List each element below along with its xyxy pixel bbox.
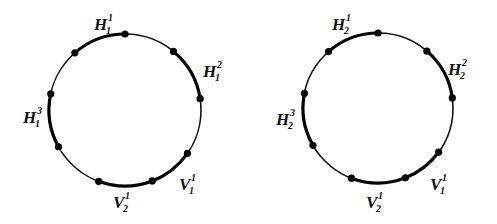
vertex-dot: [149, 177, 156, 184]
label-superscript: 3: [36, 105, 42, 116]
thick-arc: [173, 51, 200, 98]
vertex-dot: [435, 148, 442, 155]
thick-arc: [405, 152, 438, 178]
label-superscript: 3: [289, 107, 295, 118]
circle-left: H11H12H13V11V21: [22, 12, 222, 214]
label-subscript: 2: [459, 70, 465, 81]
vertex-dot: [55, 143, 62, 150]
label-subscript: 1: [106, 25, 111, 36]
thick-arc: [329, 33, 378, 52]
vertex-dot: [449, 94, 456, 101]
vertex-dot: [423, 48, 430, 55]
thick-arc: [351, 178, 405, 183]
vertex-dot: [301, 90, 308, 97]
label-subscript: 1: [215, 72, 220, 83]
vertex-dot: [402, 174, 409, 181]
diagram-canvas: H11H12H13V11V21H21H22H23V11V21: [0, 0, 497, 224]
label-subscript: 1: [189, 185, 194, 196]
label-subscript: 1: [440, 185, 445, 196]
vertex-dot: [121, 30, 128, 37]
vertex-dot: [184, 150, 191, 157]
thick-arc: [303, 93, 313, 145]
label-superscript: 1: [442, 172, 447, 183]
vertex-dot: [170, 48, 177, 55]
vertex-dot: [95, 178, 102, 185]
thick-arc: [99, 181, 153, 186]
label-superscript: 1: [191, 172, 196, 183]
label-subscript: 2: [343, 25, 349, 36]
label-subscript: 2: [122, 203, 128, 214]
circle-right: H21H22H23V11V21: [275, 12, 467, 214]
label-superscript: 1: [346, 12, 351, 23]
thick-arc: [75, 34, 125, 53]
label-superscript: 1: [125, 190, 130, 201]
label-subscript: 2: [287, 120, 293, 131]
vertex-dot: [309, 142, 316, 149]
label-subscript: 1: [35, 118, 40, 129]
label-superscript: 2: [216, 59, 222, 70]
label-subscript: 2: [375, 203, 381, 214]
vertex-dot: [197, 95, 204, 102]
label-superscript: 1: [378, 190, 383, 201]
thick-arc: [49, 94, 58, 147]
label-superscript: 2: [461, 57, 467, 68]
vertex-dot: [348, 175, 355, 182]
vertex-dot: [374, 29, 381, 36]
vertex-dot: [71, 49, 78, 56]
label-superscript: 1: [108, 12, 113, 23]
vertex-dot: [47, 90, 54, 97]
vertex-dot: [325, 48, 332, 55]
